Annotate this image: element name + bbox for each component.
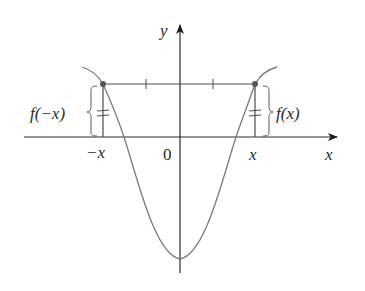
neg-x-tick-label: −x — [86, 143, 105, 162]
right-brace — [263, 86, 273, 136]
origin-label: 0 — [163, 145, 172, 164]
x-axis-label: x — [324, 145, 333, 164]
pos-x-tick-label: x — [248, 145, 257, 164]
f-neg-x-label: f(−x) — [30, 104, 65, 123]
point-neg-x — [100, 81, 106, 87]
f-x-label: f(x) — [276, 104, 300, 123]
y-axis-label: y — [158, 21, 168, 40]
point-pos-x — [252, 81, 258, 87]
left-brace — [87, 86, 97, 136]
even-function-diagram: y x 0 −x x f(−x) f(x) — [0, 0, 365, 291]
